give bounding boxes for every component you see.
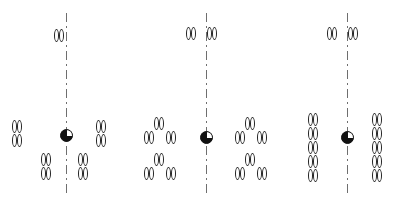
chromatid-right [313,113,318,126]
chromosome-pair [308,155,318,168]
chromosome-pair [372,169,382,182]
chromatid-right [332,27,337,40]
chromatid-right [377,141,382,154]
spindle-axis [347,13,348,196]
chromatid-right [377,127,382,140]
centriole-marker [341,131,354,144]
chromatid-right [353,27,358,40]
chromosome-pair [372,155,382,168]
figure-root [0,0,397,210]
chromosome-pair [308,169,318,182]
chromosome-pair [308,127,318,140]
chromatid-right [377,169,382,182]
chromosome-pair [348,27,358,40]
chromatid-right [313,155,318,168]
chromosome-pair [372,141,382,154]
chromatid-right [313,169,318,182]
chromosome-pair [372,127,382,140]
chromatid-right [377,155,382,168]
diagram-panel-3 [0,0,397,210]
chromosome-pair [308,113,318,126]
centriole-highlight-wedge [348,132,354,138]
chromatid-right [313,127,318,140]
chromosome-pair [327,27,337,40]
chromatid-right [313,141,318,154]
chromatid-right [377,113,382,126]
chromosome-pair [372,113,382,126]
chromosome-pair [308,141,318,154]
